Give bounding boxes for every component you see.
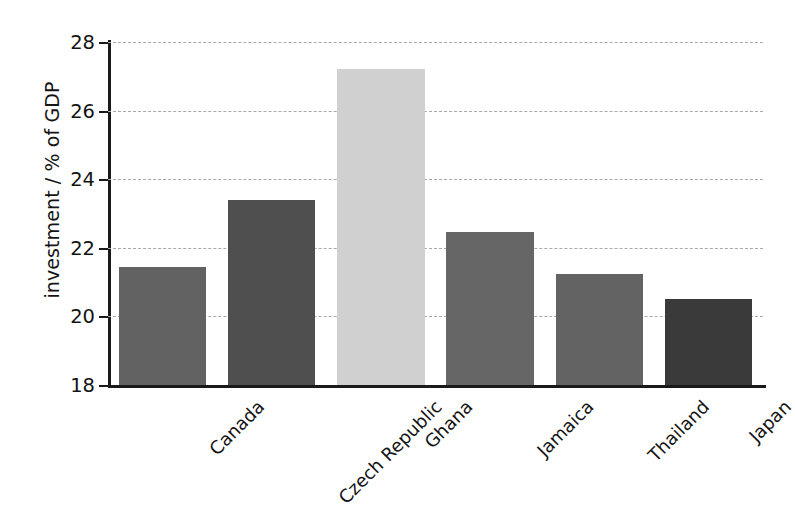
- gridline: [108, 248, 763, 249]
- y-axis-tick-mark: [99, 42, 108, 44]
- y-axis-tick-mark: [99, 248, 108, 250]
- x-axis-tick-label: Canada: [205, 396, 268, 459]
- y-axis-tick-label: 28: [70, 31, 95, 54]
- x-axis-tick-label: Czech Republic: [334, 396, 446, 508]
- y-axis-tick-mark: [99, 111, 108, 113]
- bar-canada[interactable]: [119, 267, 206, 385]
- plot-area: 182022242628: [108, 42, 763, 385]
- x-axis-tick-label: Thailand: [644, 396, 714, 466]
- y-axis-tick-label: 24: [70, 168, 95, 191]
- y-axis-tick-mark: [99, 179, 108, 181]
- x-axis-tick-label: Jamaica: [533, 396, 598, 461]
- y-axis-tick-label: 26: [70, 99, 95, 122]
- y-axis-tick-mark: [99, 316, 108, 318]
- y-axis-title: investment / % of GDP: [41, 25, 63, 355]
- gridline: [108, 179, 763, 180]
- x-axis-tick-label: Japan: [745, 396, 795, 446]
- bar-thailand[interactable]: [556, 274, 643, 385]
- gridline: [108, 42, 763, 43]
- y-axis-tick-label: 18: [70, 374, 95, 397]
- bar-ghana[interactable]: [337, 69, 424, 385]
- y-axis-tick-label: 20: [70, 305, 95, 328]
- bar-japan[interactable]: [665, 299, 752, 385]
- bar-czech-republic[interactable]: [228, 200, 315, 385]
- bar-jamaica[interactable]: [446, 232, 533, 385]
- y-axis-tick-mark: [99, 385, 108, 387]
- gridline: [108, 111, 763, 112]
- x-axis-line: [108, 385, 766, 388]
- y-axis-tick-label: 22: [70, 236, 95, 259]
